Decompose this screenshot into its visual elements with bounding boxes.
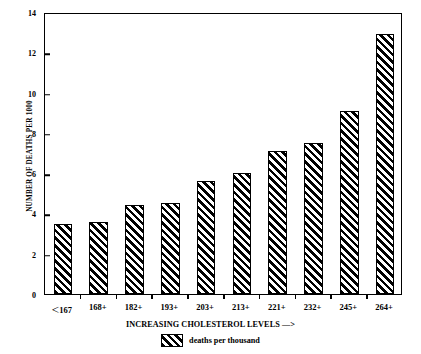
x-tick-mark — [366, 294, 368, 299]
y-tick-mark — [45, 94, 50, 96]
x-tick-label: <167 — [52, 302, 72, 318]
y-tick-mark — [45, 54, 50, 56]
x-axis-ticks — [44, 294, 402, 301]
x-tick-label: 182+ — [125, 302, 143, 312]
y-tick-label: 4 — [32, 210, 36, 219]
x-tick-label: 245+ — [340, 302, 358, 312]
bar — [233, 173, 252, 294]
y-tick-label: 14 — [28, 9, 36, 18]
x-tick-mark — [151, 294, 153, 299]
x-tick-label: 193+ — [161, 302, 179, 312]
x-tick-mark — [80, 294, 82, 299]
x-tick-label: 264+ — [375, 302, 393, 312]
x-tick-label: 213+ — [232, 302, 250, 312]
bar — [376, 34, 395, 294]
bar-chart: NUMBER OF DEATHS PER 1000 02468101214 <1… — [0, 0, 421, 354]
y-tick-label: 0 — [32, 291, 36, 300]
bars-layer — [45, 14, 401, 294]
x-tick-label: 203+ — [196, 302, 214, 312]
x-tick-label: 168+ — [89, 302, 107, 312]
x-axis-tick-labels: <167168+182+193+203+213+221+232+245+264+ — [44, 302, 402, 320]
y-tick-label: 8 — [32, 129, 36, 138]
y-tick-mark — [45, 215, 50, 217]
bar — [125, 205, 144, 294]
x-tick-mark — [295, 294, 297, 299]
legend-swatch-hatch — [161, 334, 183, 347]
y-tick-mark — [45, 255, 50, 257]
legend-label: deaths per thousand — [189, 336, 260, 345]
y-tick-label: 12 — [28, 49, 36, 58]
bar — [161, 203, 180, 294]
x-tick-label: 221+ — [268, 302, 286, 312]
less-than-icon: < — [52, 302, 59, 317]
bar — [89, 222, 108, 295]
bar — [197, 181, 216, 294]
bar — [54, 224, 73, 295]
y-tick-label: 6 — [32, 170, 36, 179]
x-axis-title: INCREASING CHOLESTEROL LEVELS —> — [0, 320, 421, 329]
y-tick-label: 10 — [28, 89, 36, 98]
x-tick-mark — [187, 294, 189, 299]
y-tick-mark — [45, 174, 50, 176]
x-tick-mark — [259, 294, 261, 299]
x-tick-mark — [116, 294, 118, 299]
x-tick-mark — [330, 294, 332, 299]
plot-area — [44, 13, 402, 295]
bar — [304, 143, 323, 294]
legend: deaths per thousand — [0, 334, 421, 347]
x-tick-label: 232+ — [304, 302, 322, 312]
bar — [268, 151, 287, 294]
y-tick-mark — [45, 134, 50, 136]
y-tick-label: 2 — [32, 250, 36, 259]
bar — [340, 111, 359, 294]
y-axis-tick-labels: 02468101214 — [0, 0, 44, 354]
x-tick-mark — [223, 294, 225, 299]
